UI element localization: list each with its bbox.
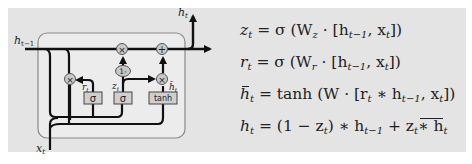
label-h-prev: ht−1 [14,34,34,48]
label-h-out: ht [178,6,188,20]
svg-text:σ: σ [120,93,127,104]
svg-text:tanh: tanh [154,94,172,103]
one-minus-gate: 1- [116,66,131,77]
equation-update-gate: zt = σ (Wz · [ht−1, xt]) [240,14,464,46]
add-symbol: + [158,44,166,55]
multiply-symbol: × [118,45,126,55]
gru-diagram: × + 1- × × σ σ tanh ht−1 ht xt rt zt h̃t [0,0,236,164]
tanh-box: tanh [149,92,177,104]
equation-reset-gate: rt = σ (Wr · [ht−1, xt]) [240,46,464,78]
equations: zt = σ (Wz · [ht−1, xt]) rt = σ (Wr · [h… [240,14,464,142]
multiply-gate-top: × [117,44,128,55]
multiply-gate-reset: × [65,74,76,85]
multiply-symbol: × [66,75,74,85]
sigma-r-box: σ [84,92,102,104]
add-gate: + [157,44,168,55]
sigma-z-box: σ [114,92,132,104]
equation-candidate: ht = tanh (W · [rt ∗ ht−1, xt]) [240,78,464,110]
one-minus-symbol: 1- [119,67,127,76]
multiply-gate-candidate: × [157,74,168,85]
output-line [188,16,193,49]
label-x-in: xt [36,142,45,156]
svg-text:σ: σ [90,93,97,104]
equation-hidden-state: ht = (1 − zt) ∗ ht−1 + zt ∗ ht [240,110,464,142]
multiply-symbol: × [158,75,166,85]
